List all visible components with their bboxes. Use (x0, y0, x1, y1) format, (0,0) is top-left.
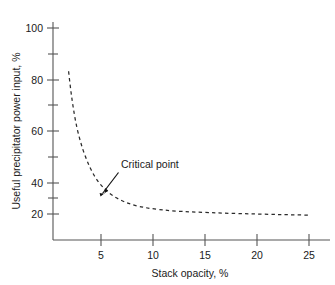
y-tick-label-20: 20 (31, 208, 43, 220)
y-tick-label-80: 80 (31, 74, 43, 86)
x-axis-title: Stack opacity, % (152, 267, 229, 279)
chart-canvas: 100 80 60 40 20 5 10 15 20 25 Stack opac… (0, 0, 335, 285)
x-tick-label-15: 15 (199, 249, 211, 261)
y-axis-title: Useful precipitator power input, % (10, 53, 22, 210)
y-axis-tick-labels: 100 80 60 40 20 (25, 22, 43, 220)
x-tick-label-10: 10 (147, 249, 159, 261)
y-tick-label-100: 100 (25, 22, 43, 34)
y-tick-label-40: 40 (31, 177, 43, 189)
critical-point-annotation: Critical point (100, 158, 179, 197)
x-tick-label-20: 20 (251, 249, 263, 261)
data-curve-useful-power-input (69, 71, 310, 215)
x-axis-tick-labels: 5 10 15 20 25 (98, 249, 315, 261)
annotation-label-critical-point: Critical point (121, 158, 179, 170)
x-tick-label-5: 5 (98, 249, 104, 261)
axis-lines (53, 22, 330, 240)
figure-container: 100 80 60 40 20 5 10 15 20 25 Stack opac… (0, 0, 335, 285)
x-tick-label-25: 25 (303, 249, 315, 261)
y-tick-label-60: 60 (31, 125, 43, 137)
